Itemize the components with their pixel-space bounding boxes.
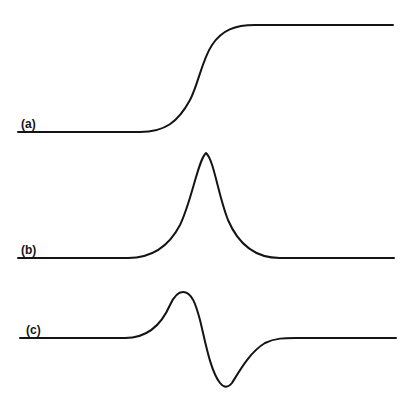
panel-label-a: (a) [21, 118, 36, 130]
curve-a-step [18, 25, 393, 132]
curve-b-peak [18, 153, 394, 258]
panel-label-b: (b) [21, 244, 36, 256]
panel-label-c: (c) [26, 324, 41, 336]
curve-c-derivative [20, 292, 396, 387]
curves-canvas [0, 0, 412, 408]
